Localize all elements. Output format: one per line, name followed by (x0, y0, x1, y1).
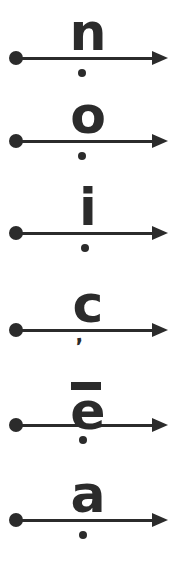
dot-below-icon (79, 531, 87, 539)
arrow-head-icon (152, 513, 168, 527)
phonetic-diacritic-chart: noic’ea (0, 0, 177, 563)
row-a: a (0, 0, 177, 563)
letter-a: a (60, 468, 116, 520)
